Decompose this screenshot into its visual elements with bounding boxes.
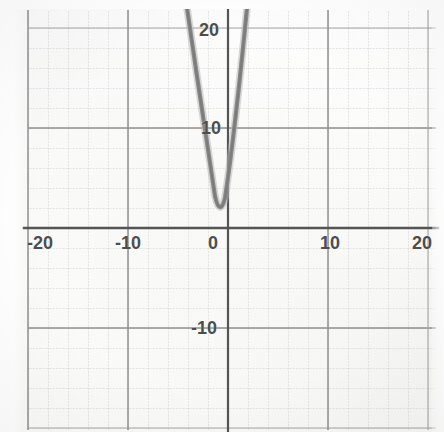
x-tick-label-pos20: 20 [412, 234, 432, 252]
y-tick-label-neg10: -10 [191, 319, 217, 337]
y-tick-label-pos20: 20 [199, 21, 219, 39]
graph-figure: -20 -10 0 10 20 20 10 -10 [0, 0, 444, 432]
x-tick-label-pos10: 10 [320, 234, 340, 252]
x-tick-label-zero: 0 [208, 234, 218, 252]
top-margin [0, 0, 444, 9]
y-tick-label-pos10: 10 [201, 119, 221, 137]
left-margin [0, 0, 24, 432]
x-tick-label-neg10: -10 [115, 234, 141, 252]
parabola-curve-layer [0, 0, 444, 432]
plot-area: -20 -10 0 10 20 20 10 -10 [0, 0, 444, 432]
right-margin [432, 0, 444, 432]
x-tick-label-neg20: -20 [27, 234, 53, 252]
